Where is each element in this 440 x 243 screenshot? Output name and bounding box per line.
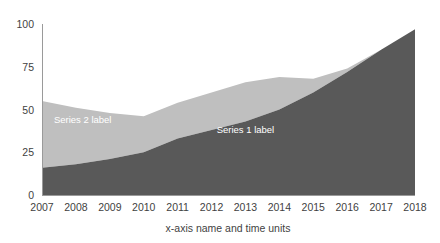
x-tick-label: 2013 <box>234 201 258 213</box>
y-tick-label: 25 <box>22 146 34 158</box>
x-tick-label: 2010 <box>132 201 156 213</box>
chart-container: 0255075100 20072008200920102011201220132… <box>0 0 440 243</box>
series-inline-label: Series 1 label <box>217 124 275 135</box>
x-tick-label: 2007 <box>30 201 54 213</box>
y-tick-label: 50 <box>22 104 34 116</box>
x-tick-label: 2011 <box>166 201 189 213</box>
y-tick-label: 0 <box>28 189 34 201</box>
series-inline-label: Series 2 label <box>54 114 112 125</box>
y-axis-ticks: 0255075100 <box>16 18 34 201</box>
x-tick-label: 2012 <box>200 201 224 213</box>
x-tick-label: 2008 <box>64 201 88 213</box>
x-axis-title: x-axis name and time units <box>166 222 291 234</box>
x-tick-label: 2016 <box>336 201 360 213</box>
x-axis-ticks: 2007200820092010201120122013201420152016… <box>30 201 427 213</box>
x-tick-label: 2017 <box>369 201 393 213</box>
x-tick-label: 2018 <box>403 201 427 213</box>
stacked-area-chart: 0255075100 20072008200920102011201220132… <box>0 0 440 243</box>
x-tick-label: 2015 <box>302 201 326 213</box>
x-tick-label: 2014 <box>268 201 292 213</box>
x-tick-label: 2009 <box>98 201 122 213</box>
y-tick-label: 75 <box>22 61 34 73</box>
y-tick-label: 100 <box>16 18 34 30</box>
